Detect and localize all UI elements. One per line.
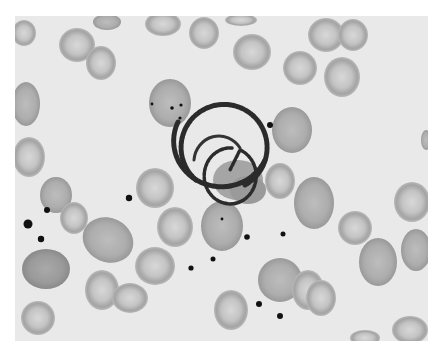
micrograph [15,16,428,341]
blood-smear-image [15,16,428,341]
